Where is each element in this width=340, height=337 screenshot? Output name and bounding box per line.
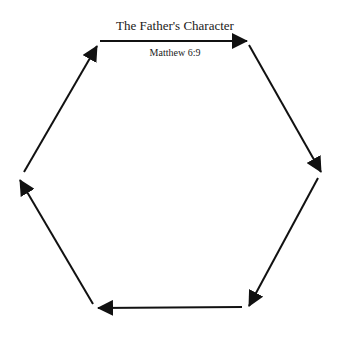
- arrow-lower-right: [249, 178, 318, 306]
- arrow-upper-left: [24, 46, 97, 172]
- arrow-bottom: [98, 307, 242, 308]
- arrow-upper-right: [249, 45, 321, 172]
- diagram-title: The Father's Character: [90, 18, 260, 34]
- diagram-subtitle: Matthew 6:9: [90, 47, 260, 58]
- arrow-lower-left: [20, 180, 93, 304]
